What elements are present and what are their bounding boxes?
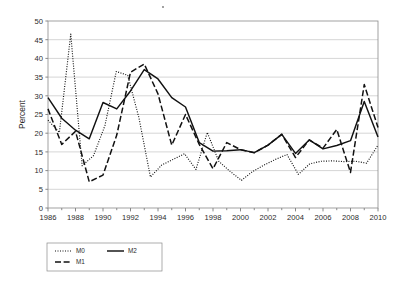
chart-figure: 05101520253035404550 1986198819901992199… (0, 0, 411, 283)
y-tick-label: 30 (35, 92, 43, 101)
scan-speck-artifact (162, 6, 164, 8)
legend-label-m1: M1 (76, 258, 85, 265)
y-axis-title: Percent (17, 99, 27, 129)
x-tick-label: 2000 (232, 213, 249, 222)
line-chart-canvas: 05101520253035404550 1986198819901992199… (0, 0, 411, 283)
x-tick-label: 2010 (370, 213, 387, 222)
y-tick-label: 0 (39, 204, 43, 213)
legend-label-m2: M2 (128, 247, 137, 254)
x-tick-label: 1994 (150, 213, 167, 222)
y-tick-label: 10 (35, 166, 43, 175)
x-tick-label: 1990 (95, 213, 112, 222)
y-tick-label: 5 (39, 185, 43, 194)
legend-label-m0: M0 (76, 247, 85, 254)
y-tick-label: 40 (35, 54, 43, 63)
y-tick-label: 35 (35, 73, 43, 82)
y-tick-label: 20 (35, 129, 43, 138)
y-tick-label: 25 (35, 110, 43, 119)
y-tick-label: 15 (35, 148, 43, 157)
x-tick-label: 2002 (260, 213, 277, 222)
x-tick-label: 1996 (177, 213, 194, 222)
x-tick-label: 1986 (40, 213, 57, 222)
x-tick-label: 1992 (122, 213, 139, 222)
x-tick-label: 2004 (287, 213, 304, 222)
x-tick-label: 1998 (205, 213, 222, 222)
y-tick-label: 50 (35, 17, 43, 26)
x-tick-label: 2008 (342, 213, 359, 222)
legend-box (47, 243, 162, 271)
chart-legend: M0M2M1 (47, 243, 162, 271)
x-tick-label: 1988 (67, 213, 84, 222)
y-tick-label: 45 (35, 36, 43, 45)
x-tick-label: 2006 (315, 213, 332, 222)
